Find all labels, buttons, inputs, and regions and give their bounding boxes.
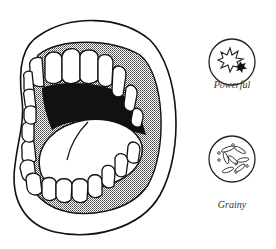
grainy-label: Grainy <box>202 199 262 210</box>
grainy-icon <box>209 136 255 182</box>
powerful-label: Powerful <box>202 79 262 90</box>
mouth-diagram <box>0 0 276 249</box>
